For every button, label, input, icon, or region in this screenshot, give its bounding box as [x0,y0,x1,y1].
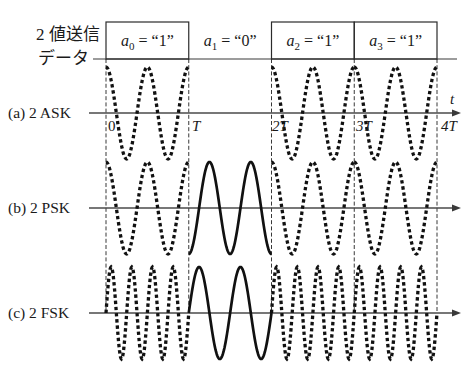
bit-cell-a1: a1 = “0” [204,32,257,52]
row-ask: (a) 2 ASK t 0 T 2T 3T 4T [8,67,461,159]
bit-label: a0 = “1” [121,32,174,52]
bit-cell-a3: a3 = “1” [354,22,437,59]
row-label-ask: (a) 2 ASK [8,104,72,122]
bit-value: = “1” [383,32,422,49]
modulation-diagram: 2 値送信 データ a0 = “1” a1 = “0” a2 = “1” a3 … [0,0,469,380]
bit-symbol: a [287,32,295,49]
bit-symbol: a [204,32,212,49]
axis-arrow-icon [452,205,461,212]
bit-cell-a0: a0 = “1” [106,22,189,59]
bit-sequence: a0 = “1” a1 = “0” a2 = “1” a3 = “1” [106,22,437,59]
header-label-transmit-data: 2 値送信 [36,25,100,44]
bit-value: = “1” [300,32,339,49]
tick-2T: 2T [272,118,290,134]
row-label-psk: (b) 2 PSK [8,199,71,217]
tick-T: T [192,118,202,134]
bit-label: a2 = “1” [287,32,340,52]
axis-arrow-icon [452,310,461,317]
axis-t-label: t [450,91,455,107]
time-guides [106,59,437,313]
bit-symbol: a [369,32,377,49]
tick-0: 0 [108,118,116,134]
row-label-fsk: (c) 2 FSK [8,304,70,322]
bit-value: = “0” [217,32,256,49]
bit-label: a1 = “0” [204,32,257,52]
bit-value: = “1” [135,32,174,49]
tick-3T: 3T [355,118,374,134]
bit-label: a3 = “1” [369,32,422,52]
axis-arrow-icon [452,110,461,117]
row-psk: (b) 2 PSK [8,162,461,254]
bit-cell-a2: a2 = “1” [272,22,355,59]
row-fsk: (c) 2 FSK [8,267,461,359]
bit-symbol: a [121,32,129,49]
header-label-data: データ [38,48,89,68]
tick-4T: 4T [441,118,459,134]
